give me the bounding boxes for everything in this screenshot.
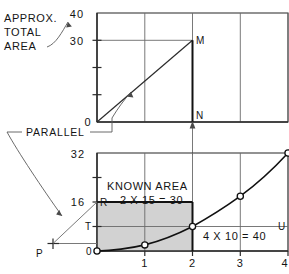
lower-ylabel-16: 16: [71, 196, 85, 208]
curve-point-0: [94, 248, 100, 254]
approx-leader-line: [47, 22, 68, 47]
upper-integral-chart: 40 30 0 M N: [70, 8, 288, 129]
approx-label-line3: AREA: [4, 40, 36, 52]
known-area-label-line2: 2 X 15 = 30: [120, 194, 183, 206]
point-label-T: T: [85, 221, 92, 232]
approx-label-line2: TOTAL: [4, 26, 41, 38]
lower-xlabel-3: 3: [237, 257, 244, 269]
upper-ylabel-30: 30: [70, 35, 84, 47]
projection-arrow-x2: [190, 121, 196, 155]
parallel-leader-left: [7, 132, 62, 216]
lower-curve-chart: 32 16 0 R T U P 1 2 3 4 KNOWN AREA 2 X 1…: [36, 148, 289, 270]
result-label: 4 X 10 = 40: [203, 230, 266, 242]
approx-label-line1: APPROX.: [4, 12, 57, 24]
engineering-diagram: 40 30 0 M N APPROX. TOTAL AREA PARALLEL: [0, 0, 289, 274]
point-label-U: U: [278, 221, 286, 232]
upper-ylabel-40: 40: [70, 8, 84, 20]
upper-ylabel-0: 0: [84, 116, 91, 128]
point-label-R: R: [100, 197, 108, 208]
lower-ylabel-0: 0: [86, 246, 92, 257]
curve-point-1: [142, 242, 148, 248]
curve-point-3: [237, 193, 243, 199]
curve-point-4: [285, 150, 289, 156]
curve-point-2: [189, 223, 195, 229]
parallel-leader-right: [90, 118, 112, 132]
known-area-label-line1: KNOWN AREA: [107, 180, 188, 192]
parallel-leader-right-2: [112, 92, 131, 118]
lower-xlabel-1: 1: [141, 257, 148, 269]
approx-total-area-callout: APPROX. TOTAL AREA: [4, 12, 72, 52]
lower-xlabel-4: 4: [281, 257, 288, 269]
parallel-arrowhead-lower-icon: [56, 210, 62, 216]
parallel-label: PARALLEL: [26, 126, 85, 138]
point-label-N: N: [196, 110, 204, 121]
point-label-P: P: [36, 248, 43, 259]
lower-xlabel-2: 2: [189, 257, 196, 269]
lower-ylabel-32: 32: [71, 148, 85, 160]
point-label-M: M: [196, 35, 205, 46]
